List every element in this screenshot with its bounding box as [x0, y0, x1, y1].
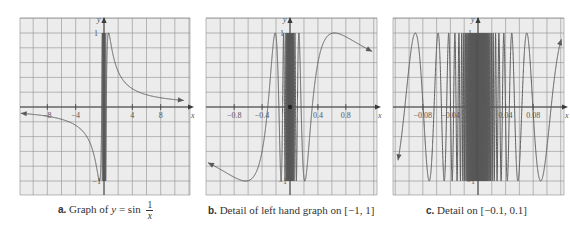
caption-c: c. Detail on [−0.1, 0.1] — [426, 204, 527, 216]
graph-c-plot: xy1−1−0.08−0.040.040.08 — [0, 0, 570, 229]
x-axis-arrow-icon — [562, 104, 568, 109]
x-axis-label: x — [564, 111, 569, 120]
caption-c-text: Detail on [−0.1, 0.1] — [437, 204, 527, 216]
caption-c-letter: c. — [426, 205, 434, 216]
y-axis-label: y — [470, 15, 475, 24]
oscillation-band — [472, 33, 483, 181]
x-tick-label: −0.08 — [414, 111, 433, 120]
